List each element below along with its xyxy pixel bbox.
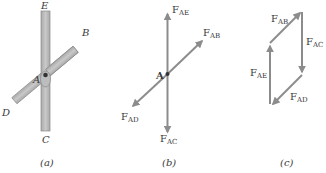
label-c-f-ad: FAD: [290, 91, 308, 104]
label-f-ac: FAC: [160, 133, 177, 146]
force-diagram: E B A D C (a) A FAE FAB FAD FAC (b): [0, 0, 326, 173]
label-c-f-ab: FAB: [271, 13, 288, 26]
panel-c: FAB FAC FAD FAE (c): [250, 12, 323, 168]
label-f-ad: FAD: [121, 111, 139, 124]
caption-c: (c): [280, 157, 294, 168]
svg-text:FAB: FAB: [203, 27, 220, 40]
label-e: E: [40, 0, 49, 11]
label-c: C: [42, 134, 50, 145]
label-a: A: [32, 74, 40, 85]
svg-text:FAD: FAD: [121, 111, 139, 124]
label-b: B: [81, 27, 89, 38]
label-c-f-ae: FAE: [250, 67, 267, 80]
pin-a: [43, 73, 48, 78]
svg-text:FAD: FAD: [290, 91, 308, 104]
label-a-b: A: [155, 70, 164, 81]
caption-b: (b): [162, 157, 176, 168]
svg-text:FAC: FAC: [160, 133, 177, 146]
panel-b: A FAE FAB FAD FAC (b): [121, 4, 220, 168]
pin-a-point: [166, 72, 170, 76]
svg-text:FAE: FAE: [172, 4, 189, 17]
label-d: D: [1, 107, 10, 118]
bar-db-front: [45, 46, 78, 75]
label-c-f-ac: FAC: [306, 36, 323, 49]
svg-text:FAE: FAE: [250, 67, 267, 80]
svg-text:FAC: FAC: [306, 36, 323, 49]
svg-text:FAB: FAB: [271, 13, 288, 26]
caption-a: (a): [40, 157, 54, 168]
label-f-ae: FAE: [172, 4, 189, 17]
label-f-ab: FAB: [203, 27, 220, 40]
panel-a: E B A D C (a): [1, 0, 89, 168]
arrow-f-ab: [168, 41, 203, 74]
